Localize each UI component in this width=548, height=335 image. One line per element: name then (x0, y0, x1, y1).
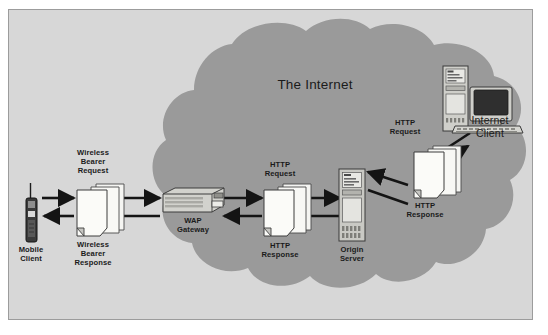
mobile-phone-icon (26, 183, 37, 242)
node-label-origin-server: Origin Server (321, 245, 383, 263)
document-stack-icon-http-right (414, 146, 461, 198)
node-label-internet-client: Internet Client (455, 114, 525, 139)
server-tower-icon (339, 169, 365, 241)
message-label-http-response-right: HTTP Response (394, 201, 456, 219)
diagram-canvas: The Internet Mobile Client Wireless Bear… (0, 0, 548, 335)
node-label-mobile-client: Mobile Client (0, 245, 62, 263)
message-label-http-request-right: HTTP Request (377, 118, 433, 136)
message-label-http-request-middle: HTTP Request (249, 160, 311, 178)
node-label-wap-gateway: WAP Gateway (162, 216, 224, 234)
document-stack-icon-http-middle (264, 184, 311, 236)
message-label-wireless-bearer-request: Wireless Bearer Request (62, 148, 124, 176)
message-label-http-response-middle: HTTP Response (249, 241, 311, 259)
document-stack-icon-wireless (77, 184, 124, 236)
message-label-wireless-bearer-response: Wireless Bearer Response (62, 240, 124, 268)
gateway-router-icon (163, 188, 224, 212)
cloud-title: The Internet (255, 77, 375, 93)
